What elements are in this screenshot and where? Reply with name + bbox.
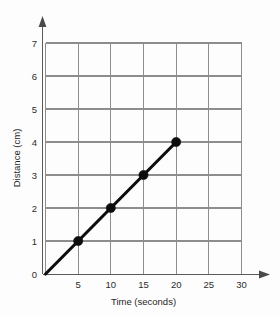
svg-text:1: 1 bbox=[32, 236, 37, 247]
distance-time-line-chart: 7 6 5 4 3 2 1 0 5 10 15 20 25 30 bbox=[0, 0, 280, 316]
svg-text:30: 30 bbox=[236, 279, 247, 290]
svg-text:20: 20 bbox=[171, 279, 182, 290]
svg-text:10: 10 bbox=[106, 279, 117, 290]
x-tick-labels: 5 10 15 20 25 30 bbox=[76, 279, 247, 290]
y-tick-labels: 7 6 5 4 3 2 1 0 bbox=[32, 38, 37, 280]
svg-text:15: 15 bbox=[138, 279, 149, 290]
svg-text:5: 5 bbox=[76, 279, 81, 290]
svg-text:2: 2 bbox=[32, 203, 37, 214]
svg-text:7: 7 bbox=[32, 38, 37, 49]
svg-text:3: 3 bbox=[32, 170, 37, 181]
x-axis bbox=[43, 271, 271, 279]
svg-text:6: 6 bbox=[32, 71, 37, 82]
data-point bbox=[74, 236, 83, 245]
x-axis-title: Time (seconds) bbox=[111, 296, 176, 307]
data-point bbox=[106, 203, 115, 212]
svg-text:4: 4 bbox=[32, 137, 37, 148]
y-axis-title: Distance (cm) bbox=[11, 129, 22, 188]
svg-text:5: 5 bbox=[32, 104, 37, 115]
data-point bbox=[172, 137, 181, 146]
data-point bbox=[139, 170, 148, 179]
svg-text:0: 0 bbox=[32, 269, 37, 280]
chart-figure: 7 6 5 4 3 2 1 0 5 10 15 20 25 30 bbox=[0, 0, 280, 316]
svg-text:25: 25 bbox=[204, 279, 215, 290]
